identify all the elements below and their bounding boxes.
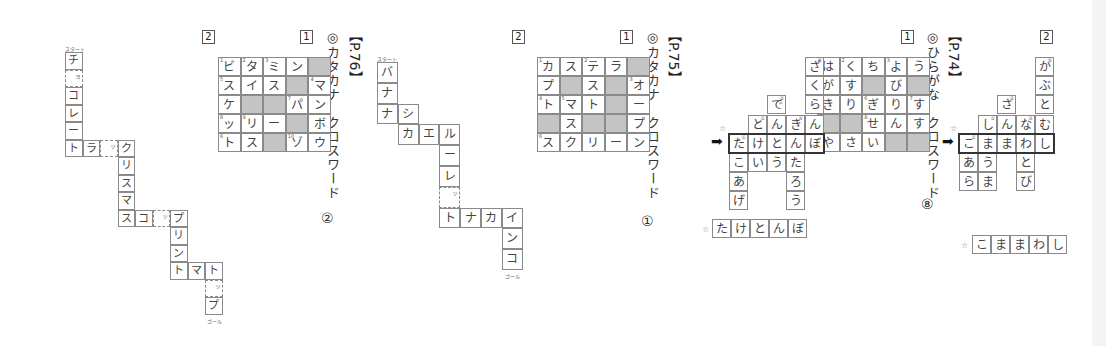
cell-text: ま <box>1001 137 1013 151</box>
word-cell: く <box>805 76 824 95</box>
cell-text: さ <box>845 136 857 150</box>
word-cell: こ① <box>959 134 978 153</box>
grid-cell: ボ <box>308 114 331 133</box>
clue-number: 2 <box>243 57 246 63</box>
path-cell: プ <box>170 210 188 228</box>
cell-text: う <box>771 156 783 170</box>
word-cell: わ <box>1016 134 1035 153</box>
star-icon: ☆ <box>702 225 709 234</box>
cell-text: レ <box>68 107 79 120</box>
grid-cell: プ <box>537 76 560 95</box>
cell-text: コ <box>138 212 149 225</box>
grid-cell: す <box>840 76 863 95</box>
cell-text: タ <box>246 60 258 74</box>
grid-cell: オ3 <box>627 76 650 95</box>
blocked-cell <box>263 133 286 152</box>
word-cell: ん <box>786 134 805 153</box>
arrow-right-icon: ➡ <box>942 133 954 149</box>
puzzle-label-1: 1 <box>620 30 633 44</box>
clue-number: 8 <box>864 114 867 120</box>
clue-number: ⑤ <box>1048 57 1052 63</box>
cell-text: ら <box>963 175 975 189</box>
cell-text: む <box>1039 118 1051 132</box>
cell-text: ま <box>982 137 994 151</box>
blocked-cell <box>241 95 264 114</box>
blocked-cell <box>560 76 583 95</box>
cell-text: ー <box>444 148 456 162</box>
blocked-cell <box>907 133 930 152</box>
blocked-cell <box>286 114 309 133</box>
grid-cell: ト4 <box>537 95 560 114</box>
word-cell: き④ <box>786 115 805 134</box>
clue-number: ① <box>742 134 746 140</box>
clue-number: ッ <box>452 190 458 196</box>
grid-cell: パ7 <box>286 95 309 114</box>
blocked-cell <box>263 95 286 114</box>
page-ref-75: 【P.75】 <box>664 28 684 85</box>
cell-text: バ <box>381 65 393 79</box>
page-ref-74: 【P.74】 <box>944 28 964 85</box>
path-cell: ト <box>170 262 188 280</box>
small-kana-cell: ッ <box>439 187 460 208</box>
path-cell: ナ <box>377 104 398 125</box>
blocked-cell <box>286 76 309 95</box>
cell-text: ぼ <box>809 137 821 151</box>
cell-text: う <box>913 60 925 74</box>
answer-cell: ぼ <box>788 219 807 238</box>
cell-text: と <box>771 137 783 151</box>
path-cell: ラ <box>83 140 101 158</box>
cell-text: あ <box>963 156 975 170</box>
cell-text: ナ <box>381 107 393 121</box>
cell-text: ト <box>208 264 219 277</box>
cell-text: や <box>822 136 834 150</box>
cell-text: ト <box>68 142 79 155</box>
cell-text: リ <box>246 117 258 131</box>
start-label: スタート <box>65 45 85 52</box>
cell-text: エ <box>423 127 435 141</box>
cell-text: ぼ <box>792 222 804 236</box>
clue-number: 6 <box>220 133 223 139</box>
grid-cell: プ <box>627 114 650 133</box>
grid-cell: テ2 <box>582 57 605 76</box>
cell-text: ま <box>982 175 994 189</box>
puzzle-label-2: 2 <box>1040 30 1053 44</box>
cell-text: ク <box>121 142 132 155</box>
word-cell: ぶ <box>1035 76 1054 95</box>
word-cell: う <box>767 153 786 172</box>
grid-cell: ス <box>560 57 583 76</box>
word-cell: ろ <box>786 172 805 191</box>
grid-cell: せ8 <box>862 114 885 133</box>
small-kana-cell: ッ <box>205 280 223 298</box>
cell-text: ん <box>890 117 902 131</box>
word-cell: た <box>786 153 805 172</box>
cell-text: ち <box>867 60 879 74</box>
clue-number: ① <box>972 134 976 140</box>
path-cell: コ <box>65 87 83 105</box>
cell-text: ビ <box>223 60 235 74</box>
cell-text: く <box>809 79 821 93</box>
small-kana-cell: ッ <box>100 140 118 158</box>
cell-text: カ <box>485 211 497 225</box>
word-cell: ん <box>805 115 824 134</box>
answer-cell: け <box>731 219 750 238</box>
path-cell: ナ <box>377 83 398 104</box>
star-icon: ☆ <box>961 241 968 250</box>
cell-text: ぶ <box>1039 79 1051 93</box>
clue-number: ョ <box>75 73 81 79</box>
cell-text: ー <box>610 136 622 150</box>
cell-text: ま <box>995 238 1007 252</box>
path-cell: カ <box>481 208 502 229</box>
blocked-cell <box>627 57 650 76</box>
cell-text: ン <box>291 60 303 74</box>
path-cell: ー <box>65 122 83 140</box>
puzzle-label-2: 2 <box>512 30 525 44</box>
cell-text: り <box>890 98 902 112</box>
blocked-cell <box>308 57 331 76</box>
grid-cell: ス <box>263 76 286 95</box>
cell-text: り <box>845 98 857 112</box>
goal-label: ゴール <box>505 272 520 279</box>
grid-cell: ッ8 <box>218 114 241 133</box>
grid-cell: す7 <box>907 95 930 114</box>
section-number: ① <box>641 213 654 229</box>
grid-cell: ビ1 <box>218 57 241 76</box>
